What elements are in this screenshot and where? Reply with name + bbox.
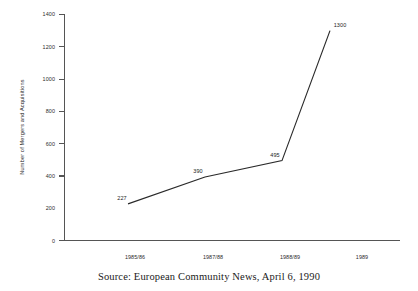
y-tick-label-600: 600 xyxy=(46,141,55,147)
chart-figure: 1400 1200 1000 800 600 400 200 0 Number … xyxy=(0,0,418,291)
data-line-series xyxy=(128,31,330,204)
y-tick-label-1200: 1200 xyxy=(43,44,55,50)
y-axis-tick-labels: 1400 1200 1000 800 600 400 200 0 xyxy=(43,11,55,243)
chart-axes xyxy=(65,14,401,241)
y-tick-label-1400: 1400 xyxy=(43,11,55,17)
data-label-1988-89: 495 xyxy=(270,152,279,158)
data-point-labels: 227 390 495 1300 xyxy=(117,22,346,202)
data-label-1985-86: 227 xyxy=(117,195,126,201)
x-axis-tick-labels: 1985/86 1987/88 1988/89 1989 xyxy=(125,254,368,260)
y-axis-title: Number of Mergers and Acquisitions xyxy=(19,79,25,174)
data-label-1989: 1300 xyxy=(334,22,347,28)
y-axis-ticks xyxy=(59,15,65,241)
x-tick-label-1987-88: 1987/88 xyxy=(203,254,223,260)
x-tick-label-1989: 1989 xyxy=(356,254,368,260)
line-chart: 1400 1200 1000 800 600 400 200 0 Number … xyxy=(0,0,418,271)
y-tick-label-800: 800 xyxy=(46,108,55,114)
y-tick-label-200: 200 xyxy=(46,205,55,211)
source-caption: Source: European Community News, April 6… xyxy=(0,271,418,282)
data-label-1987-88: 390 xyxy=(193,168,202,174)
y-tick-label-1000: 1000 xyxy=(43,76,55,82)
y-tick-label-400: 400 xyxy=(46,173,55,179)
x-tick-label-1988-89: 1988/89 xyxy=(280,254,300,260)
x-tick-label-1985-86: 1985/86 xyxy=(125,254,145,260)
y-tick-label-0: 0 xyxy=(52,238,55,244)
